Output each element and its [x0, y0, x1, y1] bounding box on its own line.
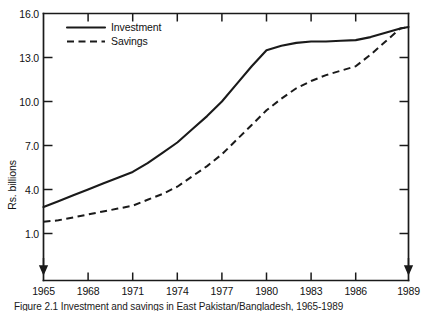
x-tick-label: 1965: [32, 285, 55, 297]
series-line-investment: [44, 27, 409, 207]
axis-break-left-icon: [40, 258, 47, 274]
x-tick-label: 1971: [121, 285, 144, 297]
x-axis-ticks: [88, 273, 356, 281]
line-chart: Investment Savings 16.0 13.0 10.0 7.0 4.…: [0, 0, 440, 311]
x-tick-label: 1983: [300, 285, 323, 297]
y-axis-tick-labels: 16.0 13.0 10.0 7.0 4.0 1.0: [19, 8, 39, 240]
x-tick-label: 1986: [344, 285, 367, 297]
legend-label-savings: Savings: [111, 35, 148, 47]
y-tick-label: 7.0: [25, 140, 39, 152]
plot-axes: [44, 14, 409, 281]
series-group: [44, 27, 409, 222]
y-tick-label: 16.0: [19, 8, 39, 20]
x-tick-label: 1980: [255, 285, 278, 297]
x-tick-label: 1989: [397, 285, 420, 297]
x-tick-label: 1968: [77, 285, 100, 297]
right-axis-ticks: [400, 58, 409, 234]
figure-caption-clip: Figure 2.1 Investment and savings in Eas…: [0, 301, 440, 311]
x-tick-label: 1974: [166, 285, 189, 297]
legend-label-investment: Investment: [111, 21, 162, 33]
y-tick-label: 4.0: [25, 184, 39, 196]
y-tick-label: 1.0: [25, 228, 39, 240]
y-axis-title: Rs. billions: [6, 160, 18, 210]
figure-caption: Figure 2.1 Investment and savings in Eas…: [14, 301, 343, 311]
x-tick-label: 1977: [211, 285, 234, 297]
series-line-savings: [44, 27, 409, 222]
legend: Investment Savings: [67, 21, 162, 47]
figure-container: Investment Savings 16.0 13.0 10.0 7.0 4.…: [0, 0, 440, 311]
y-tick-label: 10.0: [19, 96, 39, 108]
y-tick-label: 13.0: [19, 52, 39, 64]
axis-break-right-icon: [405, 258, 412, 274]
x-axis-tick-labels: 1965 1968 1971 1974 1977 1980 1983 1986 …: [32, 285, 420, 297]
